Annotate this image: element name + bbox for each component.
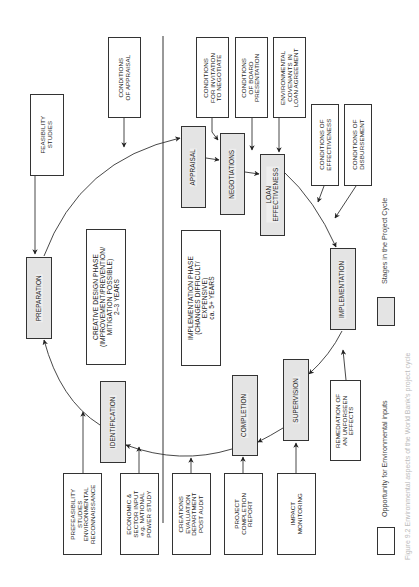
implementation-phase-label: IMPLEMENTATION PHASE (CHANGES DIFFICULT/…: [187, 256, 215, 340]
prefeasibility-label: PREFEASIBILITY STUDIES ENVIRONMENTAL REC…: [69, 484, 95, 544]
stage-loan-effectiveness: LOAN EFFECTIVENESS: [260, 154, 285, 236]
stage-preparation: PREPARATION: [26, 257, 52, 339]
implementation-phase-box: IMPLEMENTATION PHASE (CHANGES DIFFICULT/…: [181, 230, 221, 366]
project-completion-report-label: PROJECT COMPLETION REPORT: [234, 493, 254, 535]
environmental-covenants-label: ENVIRONMENTAL COVENANTS IN LOAN AGREEMEN…: [280, 48, 300, 107]
arc-implementation-supervision: [309, 331, 342, 374]
arc-completion-identification: [126, 445, 232, 456]
stage-preparation-label: PREPARATION: [36, 274, 43, 322]
creative-design-phase-box: CREATIVE DESIGN PHASE (IMPROVEMENT/PREVE…: [86, 229, 126, 365]
creations-evaluation-box: CREATIONS EVALUATION DEPARTMENT POST AUD…: [172, 473, 211, 555]
stage-loan-effectiveness-label: LOAN EFFECTIVENESS: [266, 167, 279, 223]
conditions-disbursement-box: CONDITIONS OF DISBURSEMENT: [344, 104, 372, 186]
conditions-of-appraisal-box: CONDITIONS OF APPRAISAL: [108, 37, 141, 118]
feasibility-studies-box: FEASIBILITY STUDIES: [30, 94, 64, 176]
remediation-label: REMEDIATION OF AN UNFORSEEN EFFECTS: [336, 393, 356, 447]
environmental-covenants-box: ENVIRONMENTAL COVENANTS IN LOAN AGREEMEN…: [273, 37, 306, 118]
stage-supervision: SUPERVISION: [283, 359, 309, 441]
stage-implementation: IMPLEMENTATION: [330, 248, 356, 330]
stage-implementation-label: IMPLEMENTATION: [340, 259, 347, 318]
feasibility-studies-label: FEASIBILITY STUDIES: [40, 116, 53, 154]
stage-completion-label: COMPLETION: [242, 393, 249, 438]
conditions-disbursement-label: CONDITIONS OF DISBURSEMENT: [351, 120, 364, 170]
stage-completion: COMPLETION: [232, 375, 258, 456]
conditions-board-label: CONDITIONS OF BOARD PRESENTATION: [242, 53, 262, 101]
creative-design-phase-label: CREATIVE DESIGN PHASE (IMPROVEMENT/PREVE…: [92, 247, 120, 347]
stage-negotiations: NEGOTIATIONS: [220, 133, 245, 215]
project-completion-report-box: PROJECT COMPLETION REPORT: [224, 473, 263, 555]
creations-evaluation-label: CREATIONS EVALUATION DEPARTMENT POST AUD…: [178, 492, 204, 535]
legend-stage-swatch: [377, 297, 395, 326]
impact-monitoring-box: IMPACT MONITORING: [277, 473, 316, 555]
figure-caption: Figure 9.2 Environmental aspects of the …: [404, 353, 411, 560]
legend-opportunity-swatch: [377, 527, 395, 555]
conditions-effectiveness-label: CONDITIONS OF EFFECTIVENESS: [318, 119, 331, 171]
economic-sector-box: ECONOMIC & SECTOR INPUT e.g. NATIONAL PO…: [120, 473, 159, 555]
stage-identification: IDENTIFICATION: [100, 381, 126, 463]
stage-negotiations-label: NEGOTIATIONS: [229, 148, 236, 199]
stage-supervision-label: SUPERVISION: [293, 377, 300, 424]
remediation-box: REMEDIATION OF AN UNFORSEEN EFFECTS: [330, 380, 361, 461]
conditions-board-box: CONDITIONS OF BOARD PRESENTATION: [235, 37, 268, 118]
stage-appraisal-label: APPRAISAL: [190, 148, 197, 186]
economic-sector-label: ECONOMIC & SECTOR INPUT e.g. NATIONAL PO…: [126, 490, 152, 537]
impact-monitoring-label: IMPACT MONITORING: [290, 493, 303, 534]
legend-stages-label: Stages in the Project Cycle: [380, 198, 389, 284]
project-cycle-diagram: FEASIBILITY STUDIES CONDITIONS OF APPRAI…: [0, 0, 419, 587]
prefeasibility-box: PREFEASIBILITY STUDIES ENVIRONMENTAL REC…: [63, 473, 102, 555]
conditions-effectiveness-box: CONDITIONS OF EFFECTIVENESS: [311, 104, 339, 186]
stage-identification-label: IDENTIFICATION: [110, 395, 117, 449]
conditions-of-appraisal-label: CONDITIONS OF APPRAISAL: [118, 55, 131, 101]
conditions-invitation-box: CONDITIONS FOR INVITATION TO NEGOTIATE: [196, 37, 229, 118]
arc-supervision-completion: [258, 428, 283, 442]
conditions-invitation-label: CONDITIONS FOR INVITATION TO NEGOTIATE: [203, 53, 223, 103]
legend-opportunity-label: Opportunity for Environmental inputs: [380, 400, 389, 517]
stage-appraisal: APPRAISAL: [181, 126, 206, 208]
